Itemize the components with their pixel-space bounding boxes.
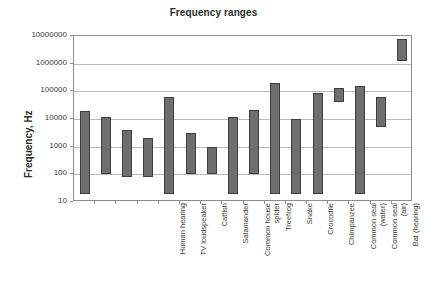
chart-title: Frequency ranges [0, 7, 427, 18]
x-category-label: Chimpanzee [348, 203, 357, 295]
range-bar[interactable] [249, 110, 259, 175]
x-category-label: Crocodile [327, 203, 336, 295]
x-category-label: Catfish [221, 203, 230, 295]
y-tick-mark [70, 201, 73, 202]
x-category-label: Common seal (air) [391, 203, 408, 295]
x-category-label: Common seal (water) [370, 203, 387, 295]
x-tick-mark [264, 201, 265, 204]
x-tick-mark [158, 201, 159, 204]
x-tick-mark [370, 201, 371, 204]
x-category-label: Salamander [242, 203, 251, 295]
range-bar[interactable] [207, 147, 217, 175]
x-tick-mark [391, 201, 392, 204]
range-bar[interactable] [291, 119, 301, 194]
x-category-label: Treefrog [285, 203, 294, 295]
x-tick-mark [221, 201, 222, 204]
range-bar[interactable] [376, 97, 386, 127]
y-tick-mark [70, 146, 73, 147]
x-category-label: Snake [306, 203, 315, 295]
x-tick-mark [243, 201, 244, 204]
x-tick-mark [115, 201, 116, 204]
y-axis-title-container: Frequency, Hz [8, 60, 28, 180]
y-tick-label: 10000000 [31, 30, 67, 39]
range-bar[interactable] [101, 117, 111, 175]
y-tick-label: 10 [58, 196, 67, 205]
x-tick-mark [306, 201, 307, 204]
y-tick-label: 1000000 [36, 58, 67, 67]
x-tick-mark [94, 201, 95, 204]
frequency-ranges-chart: Frequency ranges Frequency, Hz 100000001… [0, 0, 427, 298]
x-category-label: Bat (hearing) [412, 203, 421, 295]
range-bar[interactable] [397, 39, 407, 62]
x-axis-category-labels: Human hearingTV loudspeakerCatfishSalama… [73, 203, 412, 298]
range-bar[interactable] [270, 83, 280, 194]
y-tick-label: 100000 [40, 85, 67, 94]
range-bar[interactable] [313, 93, 323, 194]
x-tick-mark [285, 201, 286, 204]
range-bar[interactable] [186, 133, 196, 174]
x-tick-mark [137, 201, 138, 204]
x-category-label: Common house spider [264, 203, 281, 295]
x-tick-mark [327, 201, 328, 204]
y-tick-label: 1000 [49, 141, 67, 150]
y-tick-label: 100 [54, 168, 67, 177]
range-bar[interactable] [122, 130, 132, 177]
plot-area [73, 35, 412, 201]
range-bar[interactable] [228, 117, 238, 194]
x-category-label: TV loudspeaker [200, 203, 209, 295]
y-tick-mark [70, 90, 73, 91]
x-category-label: Human hearing [179, 203, 188, 295]
x-tick-mark [348, 201, 349, 204]
gridline [74, 64, 411, 65]
range-bar[interactable] [164, 97, 174, 193]
x-tick-mark [200, 201, 201, 204]
range-bar[interactable] [334, 88, 344, 102]
range-bar[interactable] [80, 111, 90, 194]
y-tick-mark [70, 63, 73, 64]
y-tick-mark [70, 173, 73, 174]
range-bar[interactable] [143, 138, 153, 177]
range-bar[interactable] [355, 86, 365, 194]
y-tick-mark [70, 118, 73, 119]
y-tick-mark [70, 35, 73, 36]
y-axis-title: Frequency, Hz [23, 110, 34, 178]
y-tick-label: 10000 [45, 113, 67, 122]
x-tick-mark [179, 201, 180, 204]
